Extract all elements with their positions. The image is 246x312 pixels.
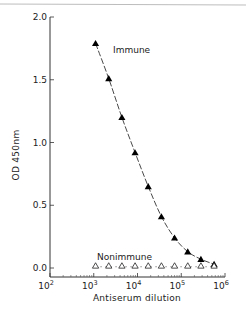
x-tick-label: 103 (82, 279, 98, 291)
filled-triangle-marker (197, 256, 204, 262)
series-immune (92, 40, 218, 267)
x-tick-label: 104 (126, 279, 142, 291)
y-tick-label: 2.0 (33, 12, 48, 22)
x-tick-label: 106 (213, 279, 229, 291)
y-tick-label: 0.0 (33, 263, 48, 273)
filled-triangle-marker (92, 40, 99, 46)
y-axis-label: OD 450nm (11, 130, 21, 181)
y-axis: 0.00.51.01.52.0 (33, 12, 54, 277)
open-triangle-marker (185, 263, 191, 268)
plot-area (92, 40, 218, 268)
open-triangle-marker (106, 263, 112, 268)
filled-triangle-marker (145, 183, 152, 189)
filled-triangle-marker (171, 234, 178, 240)
scan-edge-line (0, 4, 246, 5)
open-triangle-marker (92, 263, 98, 268)
series-nonimmune (92, 263, 217, 268)
x-axis-label: Antiserum dilution (93, 293, 181, 303)
filled-triangle-marker (158, 213, 165, 219)
open-triangle-marker (132, 263, 138, 268)
y-tick-label: 1.5 (33, 75, 47, 85)
chart: 0.00.51.01.52.0 102103104105106 OD 450nm… (0, 0, 246, 312)
y-tick-label: 0.5 (33, 200, 47, 210)
filled-triangle-marker (132, 149, 139, 155)
immune-curve (96, 43, 215, 264)
y-tick-label: 1.0 (33, 138, 48, 148)
open-triangle-marker (119, 263, 125, 268)
open-triangle-marker (198, 263, 204, 268)
x-axis: 102103104105106 (38, 273, 229, 291)
series-label-immune: Immune (113, 45, 151, 55)
series-label-nonimmune: Nonimmune (97, 252, 152, 262)
open-triangle-marker (145, 263, 151, 268)
filled-triangle-marker (105, 75, 112, 81)
filled-triangle-marker (118, 114, 125, 120)
x-tick-label: 102 (38, 279, 54, 291)
open-triangle-marker (158, 263, 164, 268)
open-triangle-marker (171, 263, 177, 268)
x-tick-label: 105 (169, 279, 185, 291)
